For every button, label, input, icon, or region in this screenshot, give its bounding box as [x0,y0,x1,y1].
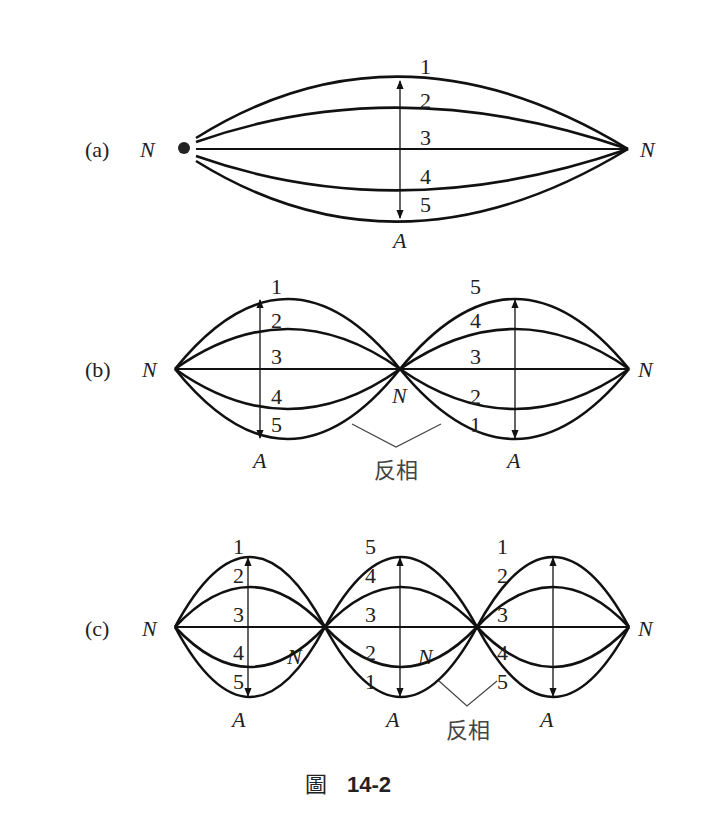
figure-caption: 圖 14-2 [305,772,391,797]
string-position-5 [196,149,628,222]
antinode-label: A [230,707,246,732]
antinode-label: A [391,228,407,253]
position-label: 1 [470,412,481,437]
position-label: 2 [420,88,431,113]
phase-bracket [439,681,497,706]
position-label: 4 [497,640,508,665]
position-label: 3 [470,344,481,369]
caption-number: 14-2 [347,772,391,797]
position-label: 2 [271,308,282,333]
position-label: 3 [233,602,244,627]
string-position-5 [175,369,400,439]
position-label: 2 [497,563,508,588]
panel-a-label: (a) [85,137,109,162]
node-label: N [141,616,158,641]
string-position-1 [325,627,477,697]
position-label: 3 [497,602,508,627]
position-label: 2 [470,384,481,409]
position-label: 4 [271,384,282,409]
position-label: 5 [233,669,244,694]
panel-c: (c) N N N N 1 2 3 4 5 5 4 3 2 1 1 2 [85,534,654,743]
position-label: 5 [271,412,282,437]
phase-bracket [352,424,441,447]
string-position-1 [175,557,325,627]
string-position-5 [175,627,325,697]
phase-label: 反相 [446,718,490,743]
panel-c-label: (c) [85,616,109,641]
node-label: N [637,357,654,382]
panel-a: (a) N N 1 2 3 4 5 A [85,54,656,253]
panel-b: (b) N N N 1 2 3 4 5 5 4 3 2 1 A A 反相 [85,274,654,483]
antinode-label: A [384,707,400,732]
string-position-1 [175,299,400,369]
antinode-label: A [251,448,267,473]
position-label: 4 [233,640,244,665]
position-label: 5 [470,274,481,299]
node-label: N [639,137,656,162]
position-label: 1 [497,534,508,559]
position-label: 5 [497,669,508,694]
position-label: 4 [365,563,376,588]
position-label: 3 [365,602,376,627]
string-position-5 [325,557,477,627]
string-position-1 [196,77,628,149]
node-label: N [139,137,156,162]
antinode-label: A [505,448,521,473]
position-label: 1 [365,669,376,694]
position-label: 2 [365,640,376,665]
position-label: 3 [420,125,431,150]
node-label: N [141,357,158,382]
position-label: 4 [420,164,431,189]
position-label: 4 [470,308,481,333]
position-label: 5 [365,534,376,559]
position-label: 1 [420,54,431,79]
caption-prefix: 圖 [305,772,327,797]
position-label: 3 [271,344,282,369]
standing-wave-figure: (a) N N 1 2 3 4 5 A (b) N N N [0,0,708,825]
panel-b-label: (b) [85,357,111,382]
position-label: 2 [233,563,244,588]
node-label: N [391,383,408,408]
phase-label: 反相 [374,458,418,483]
antinode-label: A [538,707,554,732]
node-label: N [637,616,654,641]
position-label: 1 [233,534,244,559]
position-label: 5 [420,192,431,217]
fixed-end-clamp [178,142,190,154]
position-label: 1 [271,274,282,299]
